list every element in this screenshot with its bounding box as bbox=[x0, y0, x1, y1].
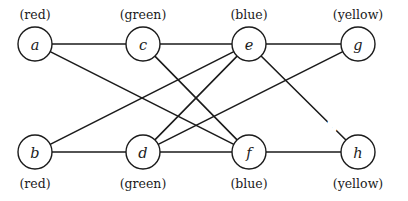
edge-weight-label: 9 bbox=[300, 25, 308, 40]
edge-weight-label: 4 bbox=[84, 157, 92, 172]
node-label: d bbox=[138, 145, 147, 161]
edges-layer bbox=[50, 44, 346, 152]
graph-node[interactable]: c bbox=[126, 27, 160, 61]
graph-node[interactable]: d bbox=[126, 135, 160, 169]
graph-node[interactable]: a bbox=[18, 27, 52, 61]
graph-node[interactable]: h bbox=[341, 135, 375, 169]
edge-weight-label: 5 bbox=[328, 69, 336, 84]
edge-weight-label: 3 bbox=[192, 157, 200, 172]
node-label: b bbox=[30, 145, 39, 161]
node-label: e bbox=[245, 37, 254, 53]
node-label: a bbox=[31, 37, 40, 53]
graph-node[interactable]: g bbox=[341, 27, 375, 61]
node-color-annotation: (green) bbox=[120, 176, 167, 191]
node-color-annotation: (yellow) bbox=[333, 7, 383, 22]
node-color-annotation: (yellow) bbox=[333, 176, 383, 191]
graph-canvas: acegbdfh 12796431058 (red)(green)(blue)(… bbox=[0, 0, 408, 201]
edge-weight-label: 8 bbox=[328, 119, 336, 134]
node-label: c bbox=[139, 37, 147, 53]
graph-edge bbox=[158, 52, 343, 145]
node-label: g bbox=[353, 37, 362, 53]
node-color-annotation: (blue) bbox=[230, 176, 267, 191]
node-color-annotation: (blue) bbox=[230, 7, 267, 22]
node-color-annotation: (red) bbox=[19, 7, 50, 22]
edge-weight-label: 10 bbox=[296, 157, 313, 172]
edge-weight-label: 7 bbox=[192, 25, 200, 40]
edge-weight-label: 6 bbox=[57, 119, 65, 134]
graph-node[interactable]: b bbox=[18, 135, 52, 169]
node-label: h bbox=[353, 145, 362, 161]
edge-weight-label: 2 bbox=[57, 65, 65, 80]
graph-figure: acegbdfh 12796431058 (red)(green)(blue)(… bbox=[0, 0, 408, 201]
graph-node[interactable]: e bbox=[232, 27, 266, 61]
node-color-annotation: (green) bbox=[120, 7, 167, 22]
color-annotations-layer: (red)(green)(blue)(yellow)(red)(green)(b… bbox=[19, 7, 383, 191]
graph-node[interactable]: f bbox=[232, 135, 266, 169]
edge-weight-label: 1 bbox=[84, 25, 92, 40]
node-color-annotation: (red) bbox=[19, 176, 50, 191]
